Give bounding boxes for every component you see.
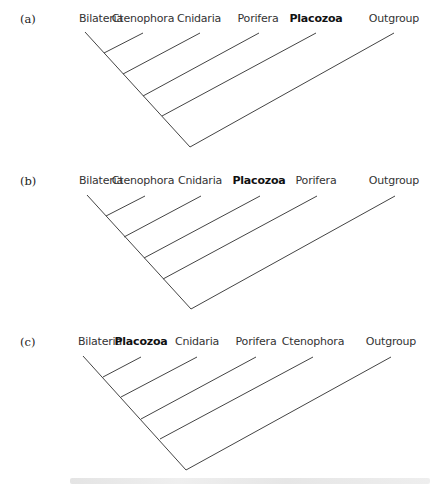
cladogram-b xyxy=(0,162,442,322)
panel-c: (c) Bilateria Placozoa Cnidaria Porifera… xyxy=(0,323,442,483)
panel-a: (a) Bilateria Ctenophora Cnidaria Porife… xyxy=(0,0,442,160)
panel-b: (b) Bilateria Ctenophora Cnidaria Placoz… xyxy=(0,162,442,322)
cladogram-a xyxy=(0,0,442,160)
cladogram-c xyxy=(0,323,442,483)
cutoff-caption-text xyxy=(70,478,430,484)
